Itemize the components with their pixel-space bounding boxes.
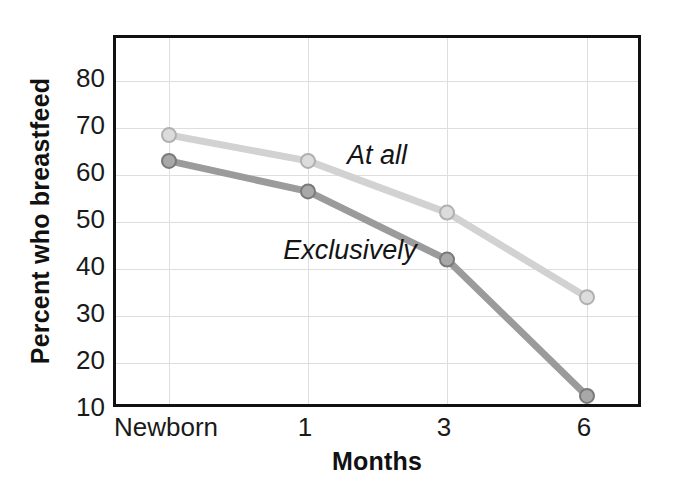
data-point-marker [162, 154, 176, 168]
series-label-exclusively: Exclusively [283, 235, 417, 266]
series-layer [116, 38, 644, 410]
y-axis-tick-label: 10 [55, 392, 105, 423]
x-axis-tick-label: 1 [298, 412, 312, 443]
y-axis-tick-label: 40 [55, 251, 105, 282]
y-axis-tick-label: 80 [55, 63, 105, 94]
chart-figure: Percent who breastfeed 8070605040302010 … [0, 0, 673, 493]
y-axis-tick-label: 50 [55, 204, 105, 235]
data-point-marker [440, 253, 454, 267]
x-axis-tick-label: 3 [437, 412, 451, 443]
y-axis-tick-label: 30 [55, 298, 105, 329]
data-point-marker [580, 290, 594, 304]
x-axis-tick-label: 6 [577, 412, 591, 443]
y-axis-tick-label: 70 [55, 110, 105, 141]
plot-inner [116, 38, 638, 404]
data-point-marker [162, 128, 176, 142]
series-label-at-all: At all [347, 140, 407, 171]
y-axis-tick-label: 20 [55, 345, 105, 376]
y-axis-title: Percent who breastfeed [20, 35, 60, 407]
x-axis-title: Months [113, 447, 641, 476]
data-point-marker [440, 206, 454, 220]
data-point-marker [301, 184, 315, 198]
y-axis-tick-label: 60 [55, 157, 105, 188]
data-point-marker [301, 154, 315, 168]
plot-area [113, 35, 641, 407]
series-exclusively [162, 154, 594, 403]
data-point-marker [580, 389, 594, 403]
series-line [169, 161, 587, 396]
x-axis-tick-label: Newborn [114, 412, 218, 443]
